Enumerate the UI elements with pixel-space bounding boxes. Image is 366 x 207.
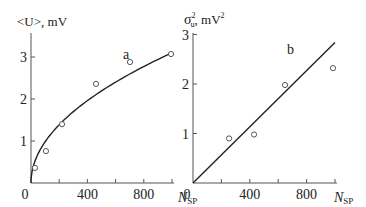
panel-b: σ2u, mV2 b 0400800 123 NSP (182, 11, 353, 206)
panel-b-y-tick-label: 2 (182, 77, 189, 92)
panel-a-x-tick-label: 400 (77, 187, 98, 202)
panel-a-data-point (59, 122, 64, 127)
figure: <U>, mV a 0400800 123 NSP σ2u, mV2 b 040… (0, 0, 366, 207)
panel-b-fit-line (193, 42, 335, 183)
panel-b-y-tick-label: 3 (182, 28, 189, 43)
panel-b-x-axis-label: NSP (333, 190, 353, 206)
panel-a-data-point (127, 59, 132, 64)
panel-a-data-point (43, 148, 48, 153)
panel-a-x-tick-label: 800 (133, 187, 154, 202)
panel-a-y-tick-label: 1 (20, 134, 27, 149)
panel-b-x-tick-label: 0 (184, 187, 191, 202)
panel-a-data-point (93, 81, 98, 86)
panel-a-fit-curve (31, 53, 172, 183)
panel-a-data-point (168, 51, 173, 56)
panel-b-x-tick-label: 400 (239, 187, 260, 202)
panel-b-y-tick-label: 1 (182, 127, 189, 142)
panel-a-y-axis-label: <U>, mV (17, 14, 68, 29)
panel-a-data-point (32, 165, 37, 170)
panel-a-y-tick-label: 3 (20, 50, 27, 65)
panel-b-data-point (330, 66, 335, 71)
panel-a: <U>, mV a 0400800 123 NSP (17, 14, 197, 206)
panel-b-x-tick-label: 800 (296, 187, 317, 202)
panel-a-x-tick-label: 0 (22, 187, 29, 202)
panel-b-data-point (226, 136, 231, 141)
panel-b-label: b (287, 42, 294, 57)
panel-a-y-tick-label: 2 (20, 92, 27, 107)
panel-b-data-point (282, 82, 287, 87)
panel-b-y-axis-label: σ2u, mV2 (184, 11, 225, 29)
panel-b-data-point (251, 132, 256, 137)
